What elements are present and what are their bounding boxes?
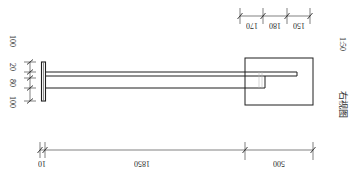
left-dimension-chain-graphics: [24, 60, 36, 104]
left-dim-value-20: 20: [8, 59, 16, 75]
bottom-dim-value-1850: 1850: [125, 159, 159, 167]
view-title: 右视图: [338, 90, 347, 120]
left-dim-value-100-top: 100: [8, 30, 16, 52]
right-support-box: [245, 58, 313, 105]
technical-drawing-canvas: 170 180 150 100 20 80 100 10 1850 500 1:…: [0, 0, 353, 172]
top-dim-value-150: 150: [289, 21, 309, 29]
left-dim-value-100-bottom: 100: [8, 91, 16, 113]
drawing-scale: 1:50: [338, 32, 346, 56]
left-dim-value-80: 80: [8, 75, 16, 91]
bottom-dim-value-10: 10: [33, 159, 51, 167]
top-dim-value-180: 180: [265, 21, 285, 29]
support-box-hidden-edges: [259, 72, 262, 88]
top-dim-value-170: 170: [242, 21, 262, 29]
bottom-dim-value-500: 500: [266, 159, 292, 167]
bottom-dimension-chain-graphics: [38, 142, 316, 160]
